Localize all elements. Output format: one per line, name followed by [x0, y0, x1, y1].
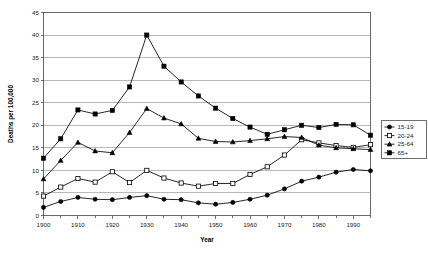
legend-label: 20-24 [398, 132, 414, 139]
data-point-marker [282, 187, 286, 191]
data-point-marker [317, 125, 321, 129]
data-point-marker [368, 143, 372, 147]
y-tick-label: 15 [32, 144, 39, 151]
series-20-24 [41, 138, 372, 199]
data-point-marker [231, 200, 235, 204]
data-point-marker [93, 180, 97, 184]
series-line [44, 109, 371, 179]
data-point-marker [248, 172, 252, 176]
data-point-marker [144, 106, 149, 110]
data-point-marker [59, 137, 63, 141]
data-point-marker [265, 193, 269, 197]
data-point-marker [162, 64, 166, 68]
data-point-marker [334, 122, 338, 126]
data-point-marker [41, 156, 45, 160]
data-point-marker [351, 167, 355, 171]
data-point-marker [59, 199, 63, 203]
data-point-marker [282, 128, 286, 132]
data-point-marker [334, 170, 338, 174]
data-point-marker [231, 116, 235, 120]
data-point-marker [162, 116, 167, 120]
data-point-marker [282, 153, 286, 157]
x-tick-label: 1980 [312, 221, 326, 228]
data-point-marker [300, 123, 304, 127]
data-point-marker [110, 170, 114, 174]
series-line [44, 169, 371, 207]
data-point-marker [110, 108, 114, 112]
data-point-marker [127, 195, 131, 199]
x-tick-label: 1900 [37, 221, 51, 228]
y-tick-label: 45 [32, 9, 39, 16]
data-point-marker [368, 133, 372, 137]
data-point-marker [145, 33, 149, 37]
data-point-marker [76, 108, 80, 112]
y-tick-label: 40 [32, 31, 39, 38]
x-tick-label: 1910 [71, 221, 85, 228]
data-point-marker [265, 165, 269, 169]
x-tick-label: 1940 [174, 221, 188, 228]
data-point-marker [41, 194, 45, 198]
x-axis-ticks [44, 216, 371, 220]
x-tick-label: 1990 [346, 221, 360, 228]
data-series-group [41, 33, 373, 210]
data-point-marker [387, 125, 391, 129]
data-point-marker [300, 179, 304, 183]
data-point-marker [93, 197, 97, 201]
series-15-19 [41, 167, 372, 209]
data-point-marker [162, 176, 166, 180]
data-point-marker [231, 181, 235, 185]
data-point-marker [248, 125, 252, 129]
data-point-marker [248, 197, 252, 201]
data-point-marker [387, 134, 391, 138]
data-point-marker [76, 176, 80, 180]
x-tick-label: 1950 [209, 221, 223, 228]
y-tick-label: 35 [32, 54, 39, 61]
data-point-marker [76, 140, 81, 144]
y-axis-title: Deaths per 100,000 [7, 85, 15, 143]
y-axis-tick-labels: 051015202530354045 [32, 9, 39, 219]
data-point-marker [41, 205, 45, 209]
data-point-marker [93, 148, 98, 152]
y-tick-label: 30 [32, 76, 39, 83]
data-point-marker [387, 151, 391, 155]
data-point-marker [127, 85, 131, 89]
data-point-marker [93, 112, 97, 116]
data-point-marker [145, 194, 149, 198]
x-tick-label: 1960 [243, 221, 257, 228]
data-point-marker [179, 181, 183, 185]
data-point-marker [196, 201, 200, 205]
data-point-marker [127, 180, 131, 184]
x-axis-tick-labels: 1900191019201930194019501960197019801990 [37, 221, 361, 228]
x-tick-label: 1970 [278, 221, 292, 228]
data-point-marker [76, 195, 80, 199]
data-point-marker [317, 175, 321, 179]
chart-container: 1900191019201930194019501960197019801990… [0, 0, 428, 259]
data-point-marker [162, 197, 166, 201]
data-point-marker [265, 132, 269, 136]
x-tick-label: 1920 [105, 221, 119, 228]
x-axis-title: Year [200, 236, 214, 243]
data-point-marker [196, 94, 200, 98]
data-point-marker [351, 123, 355, 127]
chart-legend: 15-1920-2425-6465+ [382, 121, 427, 159]
data-point-marker [368, 169, 372, 173]
data-point-marker [59, 185, 63, 189]
y-tick-label: 10 [32, 167, 39, 174]
y-tick-label: 5 [36, 189, 40, 196]
legend-label: 15-19 [398, 123, 414, 130]
data-point-marker [214, 202, 218, 206]
data-point-marker [179, 80, 183, 84]
line-chart: 1900191019201930194019501960197019801990… [0, 0, 428, 259]
y-tick-label: 20 [32, 121, 39, 128]
legend-label: 25-64 [398, 140, 414, 147]
data-point-marker [179, 198, 183, 202]
data-point-marker [110, 198, 114, 202]
x-tick-label: 1930 [140, 221, 154, 228]
data-point-marker [214, 106, 218, 110]
data-point-marker [145, 168, 149, 172]
data-point-marker [214, 181, 218, 185]
y-tick-label: 0 [36, 212, 40, 219]
gridlines-group [44, 35, 371, 193]
y-tick-label: 25 [32, 99, 39, 106]
data-point-marker [196, 184, 200, 188]
